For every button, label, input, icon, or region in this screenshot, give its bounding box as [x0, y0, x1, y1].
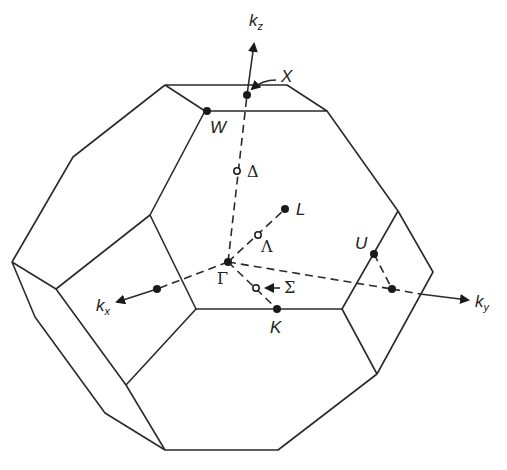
- label-u: U: [355, 234, 368, 253]
- point-u: [370, 250, 378, 258]
- kz-label: kz: [249, 11, 264, 32]
- label-w: W: [210, 118, 228, 137]
- point-delta: [234, 168, 240, 174]
- axes: [117, 44, 468, 302]
- point-kx-boundary: [153, 285, 161, 293]
- point-w: [203, 107, 211, 115]
- u-line: [374, 254, 392, 289]
- label-k: K: [270, 318, 282, 337]
- point-ky-boundary: [388, 285, 396, 293]
- point-x: [243, 91, 251, 99]
- point-gamma: [224, 258, 232, 266]
- label-sigma: Σ: [284, 278, 295, 297]
- brillouin-zone-diagram: kz kx ky X W L U K Γ Δ Λ Σ: [0, 0, 507, 470]
- label-gamma: Γ: [217, 269, 228, 288]
- point-k: [273, 305, 281, 313]
- label-lambda: Λ: [260, 237, 273, 256]
- polyhedron-edges: [12, 85, 433, 450]
- ky-label: ky: [475, 292, 491, 313]
- kx-axis-arrow: [117, 289, 157, 302]
- label-x: X: [280, 67, 293, 86]
- ky-axis-arrow: [420, 294, 468, 300]
- kx-label: kx: [96, 296, 111, 317]
- point-sigma: [253, 285, 259, 291]
- delta-line: [228, 95, 247, 262]
- point-l: [281, 205, 289, 213]
- label-delta: Δ: [247, 162, 259, 181]
- label-l: L: [296, 200, 305, 219]
